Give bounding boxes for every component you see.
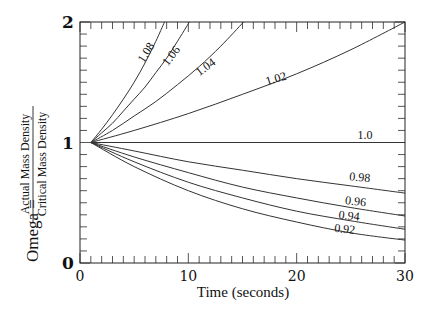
y-axis-title: Omega = Actual Mass Density Critical Mas…	[18, 106, 49, 262]
tick-labels: 0102030012	[62, 12, 414, 284]
x-tick-label: 20	[288, 268, 306, 284]
curve-label: 0.96	[344, 193, 366, 209]
x-tick-label: 0	[76, 268, 85, 284]
x-tick-label: 30	[396, 268, 414, 284]
curve-labels: 1.081.061.041.021.00.980.960.940.92	[134, 40, 372, 237]
x-tick-label: 10	[179, 268, 197, 284]
curve-label: 1.0	[357, 128, 372, 142]
curve-omega-1-02	[91, 22, 405, 143]
y-axis-denominator: Critical Mass Density	[35, 112, 49, 217]
y-tick-label: 0	[62, 253, 74, 273]
curve-omega-1-04	[91, 22, 244, 143]
y-axis-numerator: Actual Mass Density	[18, 114, 32, 215]
omega-density-chart: 1.081.061.041.021.00.980.960.940.92 0102…	[0, 0, 431, 321]
x-axis-title: Time (seconds)	[197, 284, 289, 301]
curve-label: 1.08	[134, 40, 157, 65]
curve-omega-0-98	[91, 143, 405, 194]
y-tick-label: 2	[62, 12, 74, 32]
curve-label: 0.92	[334, 221, 356, 237]
curve-label: 1.06	[159, 43, 183, 68]
curve-label: 1.02	[264, 69, 288, 89]
curve-omega-0-92	[91, 143, 405, 241]
curve-label: 0.98	[349, 169, 371, 185]
curve-label: 1.04	[193, 55, 218, 79]
y-tick-label: 1	[62, 133, 74, 153]
